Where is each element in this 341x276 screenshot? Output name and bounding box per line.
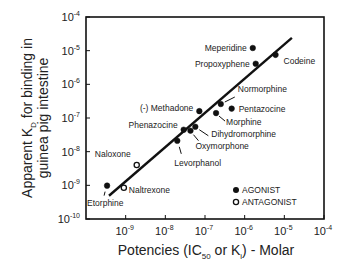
legend-agonist-label: AGONIST bbox=[242, 185, 280, 195]
agonist-point bbox=[104, 183, 110, 189]
antagonist-point bbox=[134, 162, 139, 167]
scatter-chart: Apparent KD for binding in guinea pig in… bbox=[0, 0, 341, 276]
legend-antagonist-label: ANTAGONIST bbox=[242, 197, 297, 207]
y-tick-label: 10-5 bbox=[62, 44, 81, 57]
agonist-point bbox=[181, 127, 187, 133]
point-label: Normorphine bbox=[238, 84, 287, 94]
legend: AGONIST ANTAGONIST bbox=[233, 185, 297, 207]
label-leader-line bbox=[104, 192, 105, 196]
agonist-point bbox=[188, 128, 194, 134]
x-tick-label: 10-8 bbox=[155, 224, 174, 237]
agonist-point bbox=[193, 124, 199, 130]
y-tick-label: 10-10 bbox=[58, 212, 80, 225]
agonist-point bbox=[197, 108, 203, 114]
y-tick-label: 10-9 bbox=[62, 178, 81, 191]
point-label: (-) Methadone bbox=[140, 103, 194, 113]
agonist-point bbox=[253, 61, 259, 67]
agonist-point bbox=[213, 110, 219, 116]
point-label: Levorphanol bbox=[174, 158, 221, 168]
point-label: Etorphine bbox=[87, 198, 124, 208]
point-label: Propoxyphene bbox=[195, 59, 250, 69]
point-label: Naloxone bbox=[95, 149, 131, 159]
point-label: Naltrexone bbox=[129, 185, 170, 195]
legend-agonist-marker bbox=[233, 187, 239, 193]
x-tick-label: 10-5 bbox=[274, 224, 293, 237]
point-label: Morphine bbox=[226, 117, 262, 127]
agonist-point bbox=[250, 45, 256, 51]
label-leader-line bbox=[225, 97, 235, 102]
label-leader-line bbox=[179, 147, 181, 154]
agonist-point bbox=[174, 138, 180, 144]
label-leader-line bbox=[219, 116, 225, 121]
x-tick-label: 10-7 bbox=[195, 224, 214, 237]
y-axis-title: Apparent KD for binding in guinea pig in… bbox=[19, 38, 51, 198]
y-tick-label: 10-4 bbox=[62, 10, 81, 23]
antagonist-point bbox=[121, 185, 126, 190]
x-tick-label: 10-6 bbox=[234, 224, 253, 237]
agonist-point bbox=[229, 106, 235, 112]
x-tick-label: 10-9 bbox=[115, 224, 134, 237]
y-tick-label: 10-6 bbox=[62, 77, 81, 90]
point-label: Meperidine bbox=[205, 43, 247, 53]
point-label: Phenazocine bbox=[129, 120, 178, 130]
y-tick-label: 10-8 bbox=[62, 145, 81, 158]
x-tick-label: 10-4 bbox=[314, 224, 333, 237]
point-labels: EtorphineLevorphanolPhenazocineOxymorpho… bbox=[87, 43, 315, 208]
point-label: Pentazocine bbox=[239, 104, 286, 114]
point-label: Codeine bbox=[284, 56, 316, 66]
y-tick-label: 10-7 bbox=[62, 111, 81, 124]
x-axis-title: Potencies (IC50 or Ki) - Molar bbox=[118, 242, 295, 261]
agonist-point bbox=[273, 52, 279, 58]
agonist-point bbox=[218, 101, 224, 107]
svg-text:guinea pig intestine: guinea pig intestine bbox=[35, 57, 51, 178]
legend-antagonist-marker bbox=[233, 199, 238, 204]
label-leader-line bbox=[199, 130, 208, 136]
point-label: Dihydromorphine bbox=[211, 129, 276, 139]
y-axis-ticks: 10-410-510-610-710-810-910-10 bbox=[58, 10, 90, 225]
point-label: Oxymorphone bbox=[195, 141, 249, 151]
